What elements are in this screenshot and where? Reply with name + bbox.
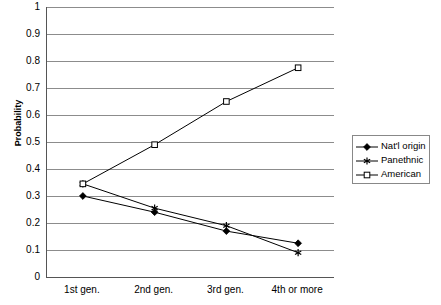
legend-label: Panethnic <box>379 154 423 165</box>
y-axis-tick-label: 0.3 <box>14 191 40 201</box>
data-point-marker-square <box>224 99 230 105</box>
legend-item-3[interactable]: American <box>355 166 426 180</box>
plot-area <box>46 7 334 278</box>
data-point-marker-square <box>152 142 158 148</box>
legend-item-1[interactable]: Nat'l origin <box>355 138 426 152</box>
y-axis-tick-label: 0.9 <box>14 29 40 39</box>
y-axis-tick-label: 0 <box>14 272 40 282</box>
legend-label: Nat'l origin <box>379 140 426 151</box>
x-axis-tick-label: 1st gen. <box>64 284 100 295</box>
chart-legend: Nat'l originPanethnicAmerican <box>352 135 430 184</box>
data-point-marker-diamond <box>295 240 302 247</box>
x-axis-tick-label: 4th or more <box>272 284 323 295</box>
chart-container: Probability 00.10.20.30.40.50.60.70.80.9… <box>0 0 441 305</box>
series-line <box>83 68 298 184</box>
series-line <box>83 184 298 253</box>
y-axis-tick-label: 0.8 <box>14 56 40 66</box>
series-2 <box>80 180 301 256</box>
y-axis-tick-label: 0.5 <box>14 137 40 147</box>
x-axis-tick-label: 3rd gen. <box>207 284 244 295</box>
y-axis-tick-label: 1 <box>14 2 40 12</box>
y-axis-tick-label: 0.2 <box>14 218 40 228</box>
data-point-marker-square <box>295 65 301 71</box>
y-axis-tick-labels: 00.10.20.30.40.50.60.70.80.91 <box>14 0 40 305</box>
series-line <box>83 196 298 243</box>
series-3 <box>80 65 301 187</box>
legend-item-2[interactable]: Panethnic <box>355 152 426 166</box>
legend-marker-open-square <box>355 167 379 179</box>
y-axis-tick-label: 0.7 <box>14 83 40 93</box>
y-axis-tick-label: 0.4 <box>14 164 40 174</box>
chart-svg <box>47 7 334 277</box>
y-axis-tick-label: 0.6 <box>14 110 40 120</box>
x-axis-tick-label: 2nd gen. <box>134 284 173 295</box>
legend-marker-filled-diamond <box>355 139 379 151</box>
legend-label: American <box>379 168 421 179</box>
series-1 <box>79 193 301 247</box>
x-axis-tick-labels: 1st gen.2nd gen.3rd gen.4th or more <box>46 282 333 300</box>
legend-marker-asterisk <box>355 153 379 165</box>
y-axis-tick-label: 0.1 <box>14 245 40 255</box>
data-point-marker-diamond <box>79 193 86 200</box>
data-point-marker-diamond <box>364 144 371 151</box>
data-point-marker-square <box>364 172 370 178</box>
data-point-marker-square <box>80 181 86 187</box>
